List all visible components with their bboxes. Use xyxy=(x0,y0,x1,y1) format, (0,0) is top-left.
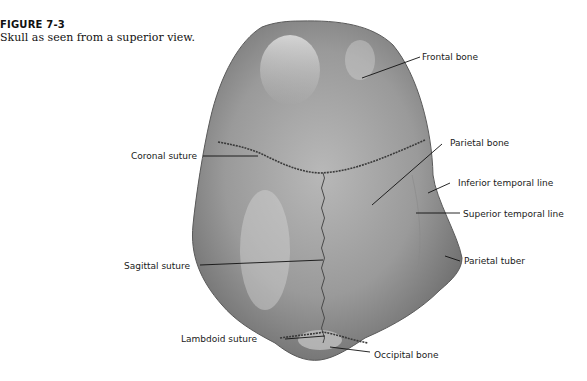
label-superior-temporal-line: Superior temporal line xyxy=(463,209,564,219)
label-frontal-bone: Frontal bone xyxy=(422,52,478,62)
label-parietal-bone: Parietal bone xyxy=(450,138,509,148)
label-lambdoid-suture: Lambdoid suture xyxy=(181,334,257,344)
label-sagittal-suture: Sagittal suture xyxy=(124,261,190,271)
label-parietal-tuber: Parietal tuber xyxy=(464,256,525,266)
skull-outline xyxy=(192,21,462,360)
skull-illustration xyxy=(0,0,587,381)
label-inferior-temporal-line: Inferior temporal line xyxy=(458,178,553,188)
label-occipital-bone: Occipital bone xyxy=(374,350,439,360)
label-coronal-suture: Coronal suture xyxy=(131,151,197,161)
